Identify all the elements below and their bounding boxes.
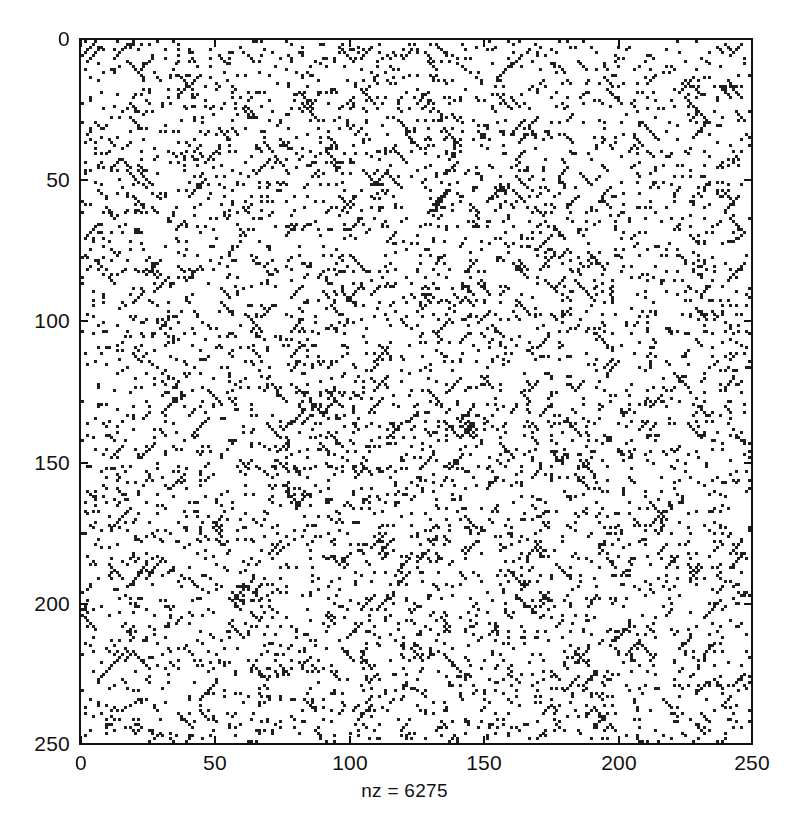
spy-plot-figure: 0 50 100 150 200 250 0 50 100 150 200 25… — [0, 0, 809, 829]
y-tick-label-250: 250 — [34, 733, 70, 754]
x-tick-150 — [483, 736, 485, 745]
y-tick-150 — [79, 462, 88, 464]
x-tick-label-200: 200 — [601, 752, 637, 773]
x-tick-top-100 — [349, 38, 351, 47]
x-tick-label-250: 250 — [734, 752, 770, 773]
x-tick-label-50: 50 — [203, 752, 227, 773]
sparsity-scatter-canvas — [81, 40, 751, 743]
y-tick-100 — [79, 320, 88, 322]
x-tick-0 — [80, 736, 82, 745]
y-tick-50 — [79, 179, 88, 181]
x-tick-50 — [214, 736, 216, 745]
y-tick-right-200 — [744, 603, 753, 605]
x-tick-top-200 — [618, 38, 620, 47]
x-tick-top-50 — [214, 38, 216, 47]
x-tick-top-250 — [751, 38, 753, 47]
x-tick-200 — [618, 736, 620, 745]
sparsity-plot-area — [79, 38, 753, 745]
x-tick-250 — [751, 736, 753, 745]
y-tick-right-50 — [744, 179, 753, 181]
x-tick-100 — [349, 736, 351, 745]
y-tick-label-150: 150 — [34, 452, 70, 473]
x-tick-top-0 — [80, 38, 82, 47]
y-tick-label-100: 100 — [34, 310, 70, 331]
y-tick-right-150 — [744, 462, 753, 464]
y-tick-200 — [79, 603, 88, 605]
x-tick-label-0: 0 — [75, 752, 87, 773]
nz-caption: nz = 6275 — [0, 781, 809, 801]
x-tick-label-100: 100 — [332, 752, 368, 773]
y-tick-label-50: 50 — [46, 169, 70, 190]
x-tick-label-150: 150 — [466, 752, 502, 773]
y-tick-label-0: 0 — [58, 28, 70, 49]
y-tick-right-100 — [744, 320, 753, 322]
y-tick-label-200: 200 — [34, 593, 70, 614]
x-tick-top-150 — [483, 38, 485, 47]
